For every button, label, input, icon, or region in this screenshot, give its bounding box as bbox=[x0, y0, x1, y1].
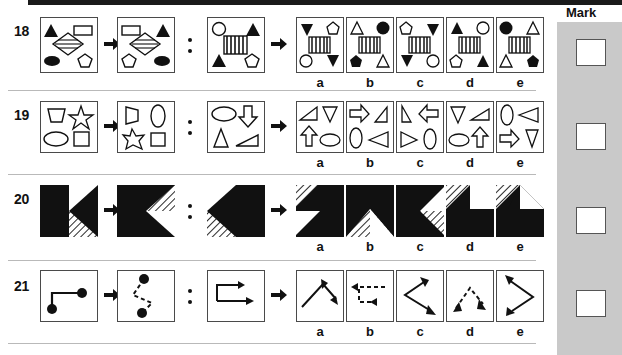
arrow-icon-q21-2 bbox=[271, 288, 287, 302]
mark-column-title: Mark bbox=[566, 5, 596, 20]
q21-option-label-c: c bbox=[396, 324, 444, 339]
q21-option-c[interactable] bbox=[396, 270, 444, 322]
q18-stem-cell-c bbox=[207, 17, 265, 73]
question-row-20: 20 bbox=[0, 175, 545, 258]
arrow-icon-q18-2 bbox=[271, 37, 287, 51]
analogy-colon-q18 bbox=[188, 38, 192, 53]
q19-stem-cell-c bbox=[207, 101, 265, 153]
q20-option-d[interactable] bbox=[446, 185, 494, 237]
q19-option-label-e: e bbox=[496, 155, 544, 170]
q19-stem-cell-b bbox=[117, 101, 175, 153]
mark-box-18[interactable] bbox=[576, 39, 606, 66]
q21-option-label-e: e bbox=[496, 324, 544, 339]
q18-option-e[interactable] bbox=[496, 17, 544, 73]
q21-stem-cell-c bbox=[207, 270, 265, 322]
q21-option-d[interactable] bbox=[446, 270, 494, 322]
q18-option-a[interactable] bbox=[296, 17, 344, 73]
q21-stem-cell-a bbox=[40, 270, 98, 322]
question-number-21: 21 bbox=[14, 278, 29, 294]
q21-option-label-d: d bbox=[446, 324, 494, 339]
mark-box-20[interactable] bbox=[576, 207, 606, 234]
row-separator-21 bbox=[8, 343, 536, 344]
q18-option-label-a: a bbox=[296, 75, 344, 90]
q21-option-b[interactable] bbox=[346, 270, 394, 322]
q19-option-label-b: b bbox=[346, 155, 394, 170]
q21-option-e[interactable] bbox=[496, 270, 544, 322]
q20-stem-cell-c bbox=[207, 185, 265, 237]
analogy-colon-q21 bbox=[188, 289, 192, 304]
q20-option-label-d: d bbox=[446, 239, 494, 254]
q21-option-label-a: a bbox=[296, 324, 344, 339]
q19-option-e[interactable] bbox=[496, 101, 544, 153]
q20-stem-cell-b bbox=[117, 185, 175, 237]
question-number-20: 20 bbox=[14, 191, 29, 207]
q18-stem-cell-a bbox=[40, 17, 98, 73]
mark-box-21[interactable] bbox=[576, 290, 606, 317]
q18-option-label-e: e bbox=[496, 75, 544, 90]
mark-column-panel bbox=[557, 22, 622, 355]
q19-option-label-d: d bbox=[446, 155, 494, 170]
q20-option-a[interactable] bbox=[296, 185, 344, 237]
q20-option-label-c: c bbox=[396, 239, 444, 254]
q19-option-c[interactable] bbox=[396, 101, 444, 153]
question-row-18: 18 bbox=[0, 5, 545, 88]
question-row-21: 21 bbox=[0, 260, 545, 343]
analogy-colon-q20 bbox=[188, 204, 192, 219]
q20-stem-cell-a bbox=[40, 185, 98, 237]
q18-option-label-d: d bbox=[446, 75, 494, 90]
q18-option-d[interactable] bbox=[446, 17, 494, 73]
q21-stem-cell-b bbox=[117, 270, 175, 322]
question-row-19: 19 bbox=[0, 91, 545, 174]
q18-option-b[interactable] bbox=[346, 17, 394, 73]
arrow-icon-q20-2 bbox=[271, 203, 287, 217]
question-number-18: 18 bbox=[14, 23, 29, 39]
q21-option-a[interactable] bbox=[296, 270, 344, 322]
q18-option-c[interactable] bbox=[396, 17, 444, 73]
q19-option-d[interactable] bbox=[446, 101, 494, 153]
q20-option-e[interactable] bbox=[496, 185, 544, 237]
mark-box-19[interactable] bbox=[576, 123, 606, 150]
q20-option-b[interactable] bbox=[346, 185, 394, 237]
q18-option-label-b: b bbox=[346, 75, 394, 90]
q20-option-c[interactable] bbox=[396, 185, 444, 237]
q20-option-label-b: b bbox=[346, 239, 394, 254]
analogy-colon-q19 bbox=[188, 120, 192, 135]
question-list: 18 bbox=[0, 5, 545, 355]
q19-stem-cell-a bbox=[40, 101, 98, 153]
q18-stem-cell-b bbox=[117, 17, 175, 73]
arrow-icon-q19-2 bbox=[271, 119, 287, 133]
q19-option-b[interactable] bbox=[346, 101, 394, 153]
q19-option-a[interactable] bbox=[296, 101, 344, 153]
q19-option-label-c: c bbox=[396, 155, 444, 170]
q20-option-label-a: a bbox=[296, 239, 344, 254]
q20-option-label-e: e bbox=[496, 239, 544, 254]
q19-option-label-a: a bbox=[296, 155, 344, 170]
question-number-19: 19 bbox=[14, 107, 29, 123]
q21-option-label-b: b bbox=[346, 324, 394, 339]
q18-option-label-c: c bbox=[396, 75, 444, 90]
